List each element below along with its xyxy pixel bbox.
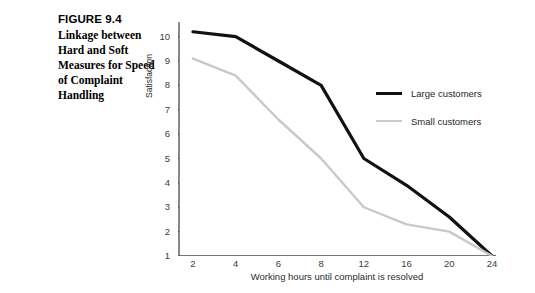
y-tick-label: 6 xyxy=(154,128,170,139)
x-tick-label: 20 xyxy=(439,258,459,269)
y-tick-label: 3 xyxy=(154,201,170,212)
y-tick-label: 4 xyxy=(154,177,170,188)
x-axis-label: Working hours until complaint is resolve… xyxy=(178,271,496,282)
y-tick-label: 8 xyxy=(154,79,170,90)
legend-item-large-customers: Large customers xyxy=(376,84,482,102)
legend-swatch-large-customers xyxy=(376,92,402,95)
y-tick-label: 10 xyxy=(154,31,170,42)
x-tick-label: 2 xyxy=(183,258,203,269)
figure-container: FIGURE 9.4 Linkage between Hard and Soft… xyxy=(0,0,535,293)
legend-label-small-customers: Small customers xyxy=(411,116,481,127)
y-tick-label: 5 xyxy=(154,153,170,164)
y-tick-label: 1 xyxy=(154,250,170,261)
y-tick-label: 9 xyxy=(154,55,170,66)
x-tick-label: 16 xyxy=(397,258,417,269)
axis-tick-marks xyxy=(178,37,492,256)
y-axis-label: Satisfaction xyxy=(144,54,154,98)
y-tick-label: 2 xyxy=(154,226,170,237)
figure-title-line: Linkage between xyxy=(58,28,168,43)
legend-item-small-customers: Small customers xyxy=(376,112,482,130)
x-tick-label: 12 xyxy=(354,258,374,269)
x-tick-label: 4 xyxy=(226,258,246,269)
y-tick-label: 7 xyxy=(154,104,170,115)
legend-swatch-small-customers xyxy=(376,120,402,122)
legend-label-large-customers: Large customers xyxy=(411,88,482,99)
x-tick-label: 8 xyxy=(311,258,331,269)
data-series-group xyxy=(193,32,492,256)
figure-number: FIGURE 9.4 xyxy=(58,12,168,27)
series-line-large-customers xyxy=(193,32,492,256)
x-tick-label: 24 xyxy=(482,258,502,269)
chart-legend: Large customers Small customers xyxy=(376,84,482,140)
x-tick-label: 6 xyxy=(268,258,288,269)
